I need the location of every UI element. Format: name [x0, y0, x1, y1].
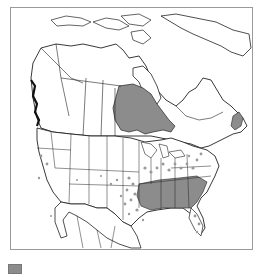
legend: [8, 264, 28, 274]
legend-swatch-range: [8, 264, 22, 274]
north-america-map: [11, 8, 253, 250]
map-frame: [10, 7, 253, 250]
